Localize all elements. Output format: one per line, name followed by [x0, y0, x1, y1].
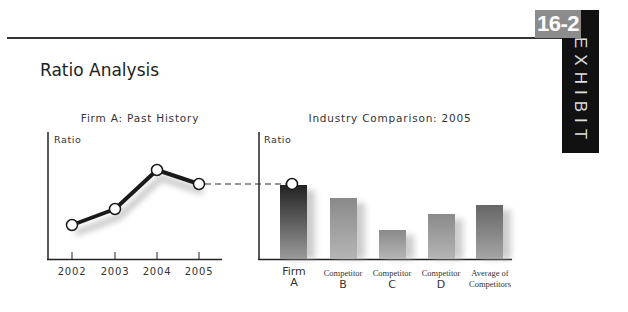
exhibit-label: EXHIBIT: [564, 36, 597, 146]
exhibit-number: 16-2: [535, 10, 581, 38]
category-competitor-c: Competitor C: [364, 268, 420, 290]
bar-competitor-d: [428, 214, 455, 259]
category-competitor-d: Competitor D: [413, 268, 469, 290]
xtick-2003: 2003: [95, 266, 135, 277]
xtick-2002: 2002: [52, 266, 92, 277]
bar-average: [476, 205, 503, 259]
category-competitor-b: Competitor B: [315, 268, 371, 290]
bar-firm-a: [280, 185, 307, 259]
category-firm-a: Firm A: [266, 266, 322, 288]
firm-a-history-line: [72, 170, 199, 225]
left-chart-axes: [47, 132, 222, 260]
bar-competitor-b: [330, 198, 357, 259]
data-markers: [67, 165, 298, 231]
xtick-2005: 2005: [179, 266, 219, 277]
xtick-2004: 2004: [137, 266, 177, 277]
category-average-competitors: Average of Competitors: [462, 268, 518, 290]
bar-competitor-c: [379, 230, 406, 259]
